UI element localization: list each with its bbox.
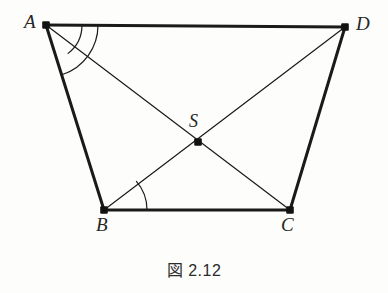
- segment-AC: [46, 25, 290, 210]
- segment-AD: [46, 25, 345, 27]
- figure-caption: 図 2.12: [0, 257, 388, 281]
- vertex-marker-A: [42, 21, 50, 29]
- vertex-label-S: S: [189, 112, 198, 130]
- figure-2-12: A D B C S 図 2.12: [0, 0, 388, 293]
- angle-arc-DAB: [63, 25, 98, 74]
- vertex-label-A: A: [24, 12, 36, 31]
- vertex-label-D: D: [356, 14, 370, 33]
- vertex-marker-D: [341, 23, 349, 31]
- vertex-marker-B: [100, 206, 108, 214]
- geometry-canvas: [0, 0, 388, 293]
- angle-arc-DBC: [136, 181, 147, 210]
- angle-arc-DAC: [68, 25, 82, 53]
- segment-AB: [46, 25, 104, 210]
- vertex-marker-C: [286, 206, 294, 214]
- vertex-label-B: B: [96, 215, 108, 234]
- vertex-label-C: C: [281, 215, 294, 234]
- segment-BD: [104, 27, 345, 210]
- segment-CD: [290, 27, 345, 210]
- vertex-marker-S: [194, 138, 202, 146]
